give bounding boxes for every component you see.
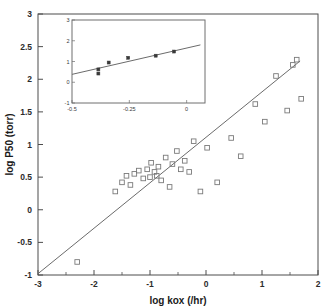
inset-frame bbox=[72, 20, 205, 103]
data-point bbox=[148, 175, 153, 180]
data-point bbox=[145, 167, 150, 172]
data-point bbox=[120, 180, 125, 185]
y-tick-label: -1 bbox=[24, 270, 32, 280]
data-point bbox=[159, 178, 164, 183]
x-tick-label: 2 bbox=[316, 279, 321, 289]
inset-data-point bbox=[127, 56, 130, 59]
data-point bbox=[215, 180, 220, 185]
x-tick-label: -2 bbox=[90, 279, 98, 289]
inset-data-point bbox=[107, 61, 110, 64]
data-point bbox=[285, 108, 290, 113]
inset-plot: -0.5-0.250-10123 bbox=[65, 17, 205, 112]
inset-data-point bbox=[97, 68, 100, 71]
inset-y-tick-label: 1 bbox=[66, 59, 69, 65]
y-tick-label: 0 bbox=[27, 205, 32, 215]
data-point bbox=[274, 74, 279, 79]
data-point bbox=[124, 174, 129, 179]
y-tick-label: 0.5 bbox=[20, 172, 32, 182]
inset-data-point bbox=[97, 72, 100, 75]
data-point bbox=[253, 102, 258, 107]
y-tick-label: 1.5 bbox=[20, 107, 32, 117]
inset-y-tick-label: 2 bbox=[66, 38, 69, 44]
data-point bbox=[182, 159, 187, 164]
inset-x-tick-label: -0.5 bbox=[67, 106, 76, 112]
data-point bbox=[167, 185, 172, 190]
figure-container: -3-2-1012log kox (/hr)-1-0.500.511.522.5… bbox=[0, 0, 330, 308]
data-point bbox=[128, 183, 133, 188]
inset-y-tick-label: 3 bbox=[66, 17, 69, 23]
y-tick-label: 1 bbox=[27, 140, 32, 150]
chart-svg: -3-2-1012log kox (/hr)-1-0.500.511.522.5… bbox=[0, 0, 330, 308]
data-point bbox=[141, 176, 146, 181]
data-point bbox=[75, 260, 80, 265]
inset-x-tick-label: -0.25 bbox=[123, 106, 136, 112]
inset-data-point bbox=[173, 50, 176, 53]
data-point bbox=[149, 160, 154, 165]
data-point bbox=[137, 168, 142, 173]
data-point bbox=[156, 164, 161, 169]
inset-y-tick-label: -1 bbox=[65, 100, 70, 106]
y-axis-title: log P50 (torr) bbox=[4, 113, 15, 175]
data-point bbox=[191, 139, 196, 144]
data-point bbox=[187, 170, 192, 175]
inset-x-tick-label: 0 bbox=[185, 106, 188, 112]
data-point bbox=[132, 172, 137, 177]
data-point bbox=[113, 189, 118, 194]
y-axis: -1-0.500.511.522.53log P50 (torr) bbox=[4, 9, 43, 280]
data-point bbox=[299, 97, 304, 102]
x-axis-title: log kox (/hr) bbox=[149, 295, 206, 306]
x-tick-label: -3 bbox=[34, 279, 42, 289]
data-point bbox=[294, 57, 299, 62]
inset-y-tick-label: 0 bbox=[66, 79, 69, 85]
inset-data-point bbox=[154, 54, 157, 57]
data-point bbox=[179, 167, 184, 172]
y-tick-label: 3 bbox=[27, 9, 32, 19]
data-point bbox=[238, 154, 243, 159]
data-point bbox=[263, 119, 268, 124]
data-point bbox=[198, 189, 203, 194]
y-tick-label: -0.5 bbox=[17, 237, 32, 247]
data-point bbox=[205, 145, 210, 150]
x-tick-label: 1 bbox=[260, 279, 265, 289]
y-tick-label: 2.5 bbox=[20, 42, 32, 52]
data-point bbox=[163, 155, 168, 160]
x-tick-label: -1 bbox=[146, 279, 154, 289]
y-tick-label: 2 bbox=[27, 74, 32, 84]
data-point bbox=[229, 136, 234, 141]
x-tick-label: 0 bbox=[204, 279, 209, 289]
data-point bbox=[175, 149, 180, 154]
